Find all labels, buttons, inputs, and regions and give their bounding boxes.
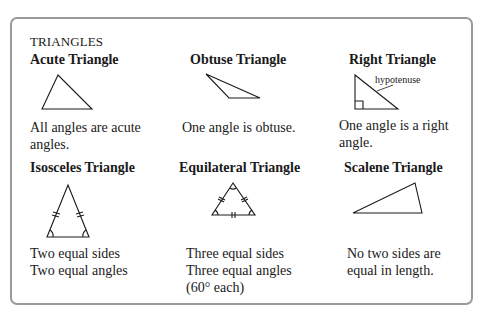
hypotenuse-label: hypotenuse <box>375 74 421 85</box>
triangle-figures: hypotenuse <box>0 0 486 320</box>
acute-triangle-icon <box>42 75 92 109</box>
scalene-triangle-icon <box>353 183 422 213</box>
obtuse-triangle-icon <box>206 74 260 98</box>
isosceles-triangle-icon <box>47 185 89 237</box>
equilateral-triangle-icon <box>212 183 255 218</box>
